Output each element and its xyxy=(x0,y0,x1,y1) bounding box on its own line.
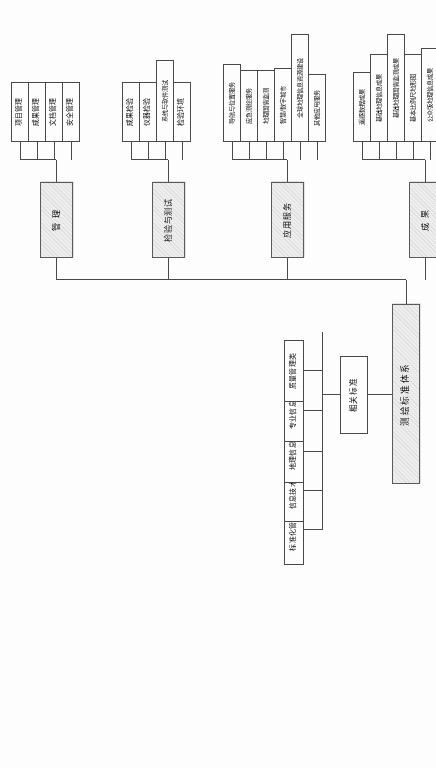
leaf-remote-sensing-data-results[interactable]: 遥感数据成果 xyxy=(353,72,371,142)
connector-related-bus xyxy=(322,332,323,530)
connector-b1-c0 xyxy=(131,142,132,160)
root-node[interactable]: 测绘标准体系 xyxy=(392,304,420,484)
branch-node-achievements[interactable]: 成 果 xyxy=(409,182,436,258)
connector-related-up xyxy=(322,394,340,395)
connector-b0-c2 xyxy=(54,142,55,160)
connector-b1-c2 xyxy=(165,142,166,160)
connector-branch-2 xyxy=(287,258,288,280)
related-standards-node[interactable]: 相关标准 xyxy=(340,356,368,434)
connector-b3-c2 xyxy=(396,142,397,160)
related-child-quality-management[interactable]: 质量管理类 xyxy=(284,340,304,402)
connector-branch-2-out xyxy=(287,160,288,182)
connector-main-bus xyxy=(56,279,406,280)
connector-related-child-4 xyxy=(304,370,322,371)
connector-b2-c5 xyxy=(317,142,318,160)
connector-b3-c3 xyxy=(413,142,414,160)
branch-node-application-services[interactable]: 应用服务 xyxy=(271,182,304,258)
connector-b2-c0 xyxy=(232,142,233,160)
connector-b0-c1 xyxy=(37,142,38,160)
leaf-smart-digital-city[interactable]: 智慧/数字城市 xyxy=(274,68,292,142)
connector-b1-c1 xyxy=(148,142,149,160)
leaf-project-management[interactable]: 项目管理 xyxy=(11,82,29,142)
branch-node-inspection-testing[interactable]: 检验与测试 xyxy=(152,182,185,258)
leaf-document-management[interactable]: 文档管理 xyxy=(45,82,63,142)
connector-b2-c4 xyxy=(300,142,301,160)
connector-b2-c3 xyxy=(283,142,284,160)
connector-branch-3-out xyxy=(425,160,426,182)
leaf-security-management[interactable]: 安全管理 xyxy=(62,82,80,142)
connector-b3-c0 xyxy=(362,142,363,160)
connector-b0-c0 xyxy=(20,142,21,160)
leaf-other-application-services[interactable]: 其他应用服务 xyxy=(308,74,326,142)
connector-branch-2-bus xyxy=(232,159,287,160)
leaf-system-software-testing[interactable]: 系统与软件测试 xyxy=(156,60,174,142)
leaf-basic-scale-topographic-map[interactable]: 基本比例尺地形图 xyxy=(404,54,422,142)
connector-branch-0-bus xyxy=(20,159,56,160)
leaf-achievement-inspection[interactable]: 成果检验 xyxy=(122,82,140,142)
connector-related-child-2 xyxy=(304,451,322,452)
branch-node-management[interactable]: 管 理 xyxy=(40,182,73,258)
connector-b2-c2 xyxy=(266,142,267,160)
connector-b3-c1 xyxy=(379,142,380,160)
connector-branch-0-out xyxy=(56,160,57,182)
connector-related-child-1 xyxy=(304,490,322,491)
leaf-achievement-management[interactable]: 成果管理 xyxy=(28,82,46,142)
leaf-inspection-environment[interactable]: 检验环境 xyxy=(173,82,191,142)
connector-branch-1-bus xyxy=(131,159,168,160)
connector-branch-3-bus xyxy=(362,159,425,160)
connector-related-child-0 xyxy=(304,529,322,530)
leaf-geographic-conditions-monitoring[interactable]: 地理国情监测 xyxy=(257,70,275,142)
leaf-instrument-inspection[interactable]: 仪器检验 xyxy=(139,82,157,142)
connector-related-child-3 xyxy=(304,410,322,411)
connector-branch-0 xyxy=(56,258,57,280)
connector-branch-3 xyxy=(425,258,426,280)
leaf-basic-geoinfo-results[interactable]: 基础地理信息成果 xyxy=(370,54,388,142)
leaf-global-geoinfo-resource-construction[interactable]: 全球地理信息资源建设 xyxy=(291,34,309,142)
leaf-basic-geo-conditions-monitoring-results[interactable]: 基础地理国情监测成果 xyxy=(387,34,405,142)
connector-b3-c4 xyxy=(430,142,431,160)
connector-root-to-related xyxy=(368,394,392,395)
connector-b1-c3 xyxy=(182,142,183,160)
connector-b0-c3 xyxy=(71,142,72,160)
diagram-canvas: 测绘标准体系 相关标准 标准化管理类 信息技术类 地理信息类 专业信息类 质量管… xyxy=(0,0,436,768)
diagram-canvas-wrapper: 测绘标准体系 相关标准 标准化管理类 信息技术类 地理信息类 专业信息类 质量管… xyxy=(0,0,436,768)
leaf-navigation-location-service[interactable]: 导航与位置服务 xyxy=(223,64,241,142)
leaf-emergency-mapping-service[interactable]: 应急测绘服务 xyxy=(240,70,258,142)
connector-branch-1-out xyxy=(168,160,169,182)
connector-b2-c1 xyxy=(249,142,250,160)
leaf-public-version-geoinfo-results[interactable]: 公众版地理信息成果 xyxy=(421,48,436,142)
connector-branch-1 xyxy=(168,258,169,280)
connector-root-trunk xyxy=(406,280,407,304)
